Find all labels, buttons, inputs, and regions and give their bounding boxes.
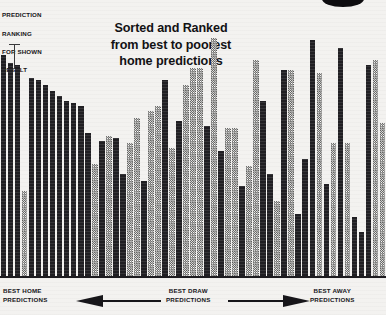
bar <box>190 68 196 277</box>
chart-page: PREDICTION RANKING FOR SHOWN RESULT Sort… <box>0 0 386 315</box>
bar <box>267 174 273 277</box>
bar <box>281 70 287 277</box>
bar <box>155 106 161 277</box>
left-arrow-shaft <box>101 300 161 302</box>
bar <box>211 38 217 277</box>
bar <box>232 128 238 277</box>
bar <box>148 111 154 277</box>
bar <box>373 60 379 277</box>
bar <box>162 80 168 277</box>
y-axis-caption-line-1: PREDICTION <box>2 10 42 19</box>
bar <box>141 181 147 277</box>
bar <box>246 166 252 277</box>
bar <box>260 101 266 277</box>
bar <box>64 101 70 277</box>
bar <box>204 126 210 277</box>
right-arrow-icon <box>228 295 310 307</box>
bar <box>352 217 358 277</box>
bar <box>8 63 14 277</box>
bar <box>134 118 140 277</box>
bar <box>78 106 84 277</box>
bar <box>71 103 77 277</box>
bar <box>36 80 42 277</box>
bar <box>218 151 224 277</box>
bar <box>15 65 21 277</box>
footer-label-best-home-line-2: PREDICTIONS <box>3 295 48 304</box>
footer-label-best-away-line-2: PREDICTIONS <box>310 295 355 304</box>
bar <box>50 91 56 277</box>
bar <box>359 232 365 277</box>
bar <box>1 55 7 277</box>
bar <box>22 191 28 277</box>
bar <box>380 123 386 277</box>
bar <box>183 85 189 277</box>
bar <box>338 48 344 277</box>
footer-label-best-draw-line-2: PREDICTIONS <box>166 295 211 304</box>
bar <box>43 85 49 277</box>
bar <box>29 78 35 277</box>
bar <box>127 143 133 277</box>
bar <box>120 174 126 277</box>
bar <box>85 133 91 277</box>
bar <box>345 143 351 277</box>
bar <box>295 214 301 277</box>
bar <box>225 128 231 277</box>
chart-baseline <box>0 276 386 278</box>
bar <box>331 143 337 277</box>
right-arrow-head <box>283 295 310 307</box>
bar-chart-plot-area <box>0 25 386 277</box>
bar <box>302 159 308 277</box>
bar <box>106 136 112 277</box>
bar <box>99 141 105 277</box>
left-arrow-head <box>76 295 103 307</box>
bar <box>317 73 323 277</box>
footer-label-best-draw-line-1: BEST DRAW <box>166 286 211 295</box>
footer-label-best-draw: BEST DRAW PREDICTIONS <box>166 286 211 304</box>
bar <box>176 121 182 277</box>
footer-label-best-home: BEST HOME PREDICTIONS <box>3 286 48 304</box>
bar <box>113 138 119 277</box>
bar <box>92 164 98 277</box>
scan-artifact-blob <box>322 0 364 7</box>
bar <box>324 184 330 277</box>
chart-footer-legend: BEST HOME PREDICTIONS BEST DRAW PREDICTI… <box>0 282 386 315</box>
bar <box>169 148 175 277</box>
bar <box>57 96 63 277</box>
bar <box>366 65 372 277</box>
bar <box>239 186 245 277</box>
footer-label-best-away-line-1: BEST AWAY <box>310 286 355 295</box>
footer-label-best-away: BEST AWAY PREDICTIONS <box>310 286 355 304</box>
bar <box>288 70 294 277</box>
bar <box>310 40 316 277</box>
bar <box>197 68 203 277</box>
left-arrow-icon <box>76 295 161 307</box>
bar <box>274 201 280 277</box>
right-arrow-shaft <box>228 300 286 302</box>
footer-label-best-home-line-1: BEST HOME <box>3 286 48 295</box>
bar <box>253 60 259 277</box>
